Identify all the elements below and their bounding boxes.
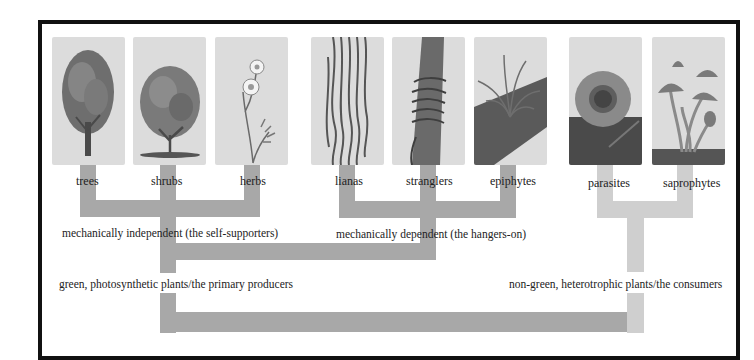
label-shrubs: shrubs [151, 174, 182, 188]
label-parasites: parasites [588, 176, 630, 190]
panel-shrubs [133, 37, 206, 165]
label-saprophytes: saprophytes [663, 176, 720, 190]
label-stranglers: stranglers [406, 174, 453, 188]
bracket-producers [176, 243, 436, 260]
panel-stranglers [392, 37, 465, 165]
panel-saprophytes [652, 37, 725, 165]
panel-lianas [311, 37, 384, 165]
mushroom-icon [652, 37, 725, 165]
bracket-dependent [339, 201, 516, 218]
label-lianas: lianas [335, 174, 363, 188]
rafflesia-flower-icon [569, 37, 642, 165]
bracket-consumers [597, 201, 693, 218]
label-consumers: non-green, heterotrophic plants/the cons… [509, 277, 722, 291]
bracket-independent [80, 200, 260, 217]
branch-consumers-trunk [627, 218, 644, 272]
label-epiphytes: epiphytes [490, 174, 536, 188]
strangler-fig-icon [392, 37, 465, 165]
label-trees: trees [76, 174, 99, 188]
panel-herbs [215, 37, 288, 165]
branch-consumers-root [627, 293, 644, 333]
shrub-icon [133, 37, 206, 165]
panel-epiphytes [474, 37, 547, 165]
liana-vines-icon [311, 37, 384, 165]
panel-trees [52, 37, 125, 165]
label-primary-producers: green, photosynthetic plants/the primary… [59, 277, 293, 291]
bracket-root [160, 312, 644, 332]
epiphyte-bromeliad-icon [474, 37, 547, 165]
tree-icon [52, 37, 125, 165]
label-mechanically-independent: mechanically independent (the self-suppo… [62, 226, 278, 240]
label-mechanically-dependent: mechanically dependent (the hangers-on) [336, 227, 526, 241]
label-herbs: herbs [240, 174, 266, 188]
panel-parasites [569, 37, 642, 165]
daisy-herb-icon [215, 37, 288, 165]
